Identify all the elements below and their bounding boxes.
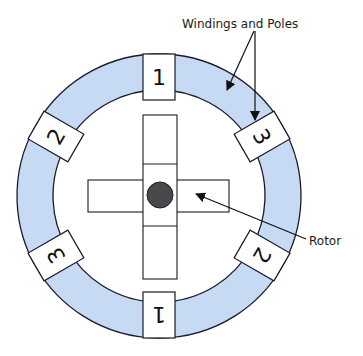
pole-bottom: 1: [143, 292, 175, 338]
rotor-label: Rotor: [309, 234, 341, 248]
rotor: [88, 115, 229, 279]
windings-and-poles-label: Windings and Poles: [182, 17, 298, 31]
pole-number: 1: [152, 65, 166, 90]
pole-top: 1: [143, 54, 175, 100]
stepper-motor-diagram: 132132 Windings and Poles Rotor: [0, 0, 363, 356]
rotor-shaft-hub: [147, 182, 173, 208]
pole-number: 1: [152, 302, 166, 327]
